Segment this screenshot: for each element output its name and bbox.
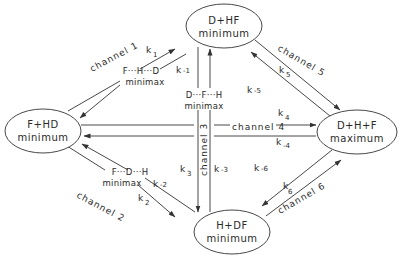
node-left: F+HD minimum [5,109,81,153]
svg-text:k: k [180,164,186,174]
node-left-ellipse [5,109,81,153]
svg-text:k: k [278,108,284,118]
node-top-ellipse [186,4,262,48]
rate-k-3: k -3 [214,164,228,174]
rate-k5: k 5 [279,65,290,79]
reaction-diagram: D+HF minimum F+HD minimum D+H+F maximum … [0,0,404,257]
node-left-type: minimum [18,132,69,143]
svg-text:k: k [247,85,253,95]
svg-text:1: 1 [153,51,157,59]
rate-k4: k 4 [278,108,290,122]
svg-text:-5: -5 [254,87,261,95]
node-left-species: F+HD [27,119,58,130]
node-bottom: H+DF minimum [194,210,270,254]
node-right-ellipse [317,110,397,154]
svg-text:6: 6 [288,188,293,196]
channel-2-label: channel 2 [75,190,127,224]
rate-k-1: k -1 [176,65,190,75]
channel-6-arrows [262,150,341,216]
ts-fhd-species: F···H···D [123,66,160,76]
channel-3-label: channel 3 [199,123,209,176]
svg-text:k: k [254,163,260,173]
ts-fdh: F···D···H minimax [102,167,148,188]
svg-text:-3: -3 [221,166,228,174]
channel-4-label: channel 4 [232,122,285,132]
svg-text:-6: -6 [261,165,269,173]
svg-text:-2: -2 [160,181,167,189]
ts-dfh: D···F···H minimax [180,90,228,111]
rate-k-5: k -5 [247,85,261,95]
svg-text:4: 4 [285,114,290,122]
rate-k2: k 2 [138,193,149,207]
node-right: D+H+F maximum [317,110,397,154]
rate-k1: k 1 [146,45,157,59]
node-right-type: maximum [330,133,384,144]
ts-dfh-type: minimax [184,101,223,111]
node-top: D+HF minimum [186,4,262,48]
ts-dfh-species: D···F···H [186,90,223,100]
ts-fdh-type: minimax [102,178,141,188]
svg-text:-4: -4 [283,142,291,150]
ts-fhd: F···H···D minimax [123,66,165,87]
svg-text:k: k [176,65,182,75]
svg-text:k: k [153,179,159,189]
rate-k-2: k -2 [153,179,167,189]
ts-fhd-type: minimax [125,77,164,87]
ts-fdh-species: F···D···H [112,167,149,177]
svg-text:k: k [214,164,220,174]
svg-text:k: k [146,45,152,55]
rate-k-4: k -4 [276,137,291,150]
svg-text:5: 5 [286,71,290,79]
svg-text:2: 2 [145,199,149,207]
node-top-species: D+HF [208,15,239,26]
rate-k-6: k -6 [254,163,269,173]
rate-k6: k 6 [283,181,293,196]
svg-text:k: k [276,137,282,147]
node-bottom-species: H+DF [216,220,247,231]
node-bottom-ellipse [194,210,270,254]
svg-text:3: 3 [187,170,191,178]
svg-text:-1: -1 [183,67,190,75]
node-bottom-type: minimum [207,233,258,244]
svg-text:k: k [279,65,285,75]
node-top-type: minimum [199,28,250,39]
rate-k3: k 3 [180,164,191,178]
node-right-species: D+H+F [337,120,377,131]
svg-text:k: k [138,193,144,203]
